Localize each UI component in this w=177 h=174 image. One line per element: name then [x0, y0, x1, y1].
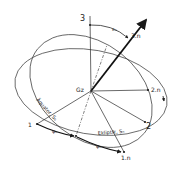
- axis-1-label: 1: [28, 121, 32, 128]
- phi-label: φₙ: [96, 143, 101, 150]
- axis-2n-line: [91, 90, 148, 91]
- axis-2-label: 2: [146, 122, 151, 131]
- axis-3n-arrow: [91, 20, 146, 91]
- epsilon-angle-arc: [90, 25, 128, 38]
- projection-line-b: [76, 91, 91, 136]
- epsilon-label: εₙ: [112, 26, 117, 32]
- equator-direction-arrow: [163, 96, 164, 101]
- axis-3-line: [90, 16, 91, 91]
- psi-label: ψₙ: [52, 128, 57, 135]
- axis-2n-point: [147, 89, 149, 91]
- center-label: Gz: [76, 86, 84, 93]
- axis-3n-label: 3.n: [131, 32, 141, 39]
- orbital-axes-diagram: 3 3.n 2.n 2 1 1.n Gz εₙ ψₙ φₙ Äquator, S…: [0, 0, 177, 174]
- axis-3-label: 3: [80, 14, 85, 23]
- axis-1n-label: 1.n: [121, 154, 131, 161]
- axis-2n-label: 2.n: [151, 86, 161, 93]
- node-point: [75, 135, 77, 137]
- axis-1n-point: [123, 151, 125, 153]
